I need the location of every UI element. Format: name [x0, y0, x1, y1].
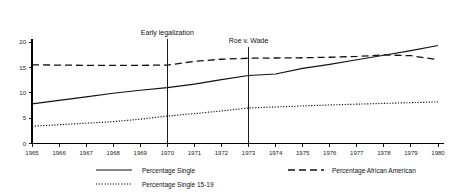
y-tick-label: 5 [23, 115, 27, 121]
x-tick-label: 1968 [107, 150, 121, 156]
x-tick-label: 1972 [215, 150, 229, 156]
x-tick-label: 1973 [242, 150, 256, 156]
x-tick-label: 1977 [350, 150, 364, 156]
y-tick-label: 15 [19, 65, 26, 71]
y-tick-label: 20 [19, 39, 26, 45]
chart-canvas: 05101520 1965196619671968196919701971197… [0, 0, 462, 196]
x-tick-label: 1970 [161, 150, 175, 156]
x-tick-label: 1976 [323, 150, 337, 156]
line-chart: 05101520 1965196619671968196919701971197… [0, 0, 462, 196]
x-axis-ticks: 1965196619671968196919701971197219731974… [25, 144, 445, 157]
y-axis-ticks: 05101520 [19, 39, 32, 147]
legend-label: Percentage Single 15-19 [142, 181, 214, 189]
legend: Percentage SinglePercentage African Amer… [96, 167, 416, 189]
x-tick-label: 1975 [296, 150, 310, 156]
x-tick-label: 1971 [188, 150, 202, 156]
series-line-dotted [32, 102, 438, 126]
annotation-label: Roe v. Wade [229, 37, 269, 44]
annotation-rules: Early legalizationRoe v. Wade [141, 29, 269, 143]
x-tick-label: 1979 [404, 150, 418, 156]
data-series [32, 46, 438, 127]
x-tick-label: 1967 [79, 150, 93, 156]
legend-label: Percentage African American [332, 167, 416, 175]
y-tick-label: 10 [19, 90, 26, 96]
x-tick-label: 1978 [377, 150, 391, 156]
legend-label: Percentage Single [142, 167, 196, 175]
axes [32, 39, 444, 144]
annotation-label: Early legalization [141, 29, 194, 37]
series-line-solid [32, 46, 438, 104]
x-tick-label: 1974 [269, 150, 283, 156]
x-tick-label: 1969 [134, 150, 148, 156]
x-tick-label: 1966 [52, 150, 66, 156]
y-tick-label: 0 [23, 141, 27, 147]
x-tick-label: 1965 [25, 150, 39, 156]
x-tick-label: 1980 [431, 150, 445, 156]
